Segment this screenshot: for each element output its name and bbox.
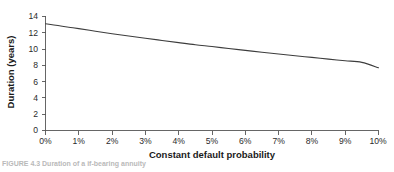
y-tick-label: 2 — [33, 109, 38, 119]
plot-area-background — [45, 10, 378, 130]
x-tick-label: 9% — [339, 136, 352, 146]
y-axis-title: Duration (years) — [5, 36, 16, 109]
y-axis-ticks — [42, 16, 46, 130]
x-tick-label: 2% — [106, 136, 119, 146]
x-tick-label: 6% — [239, 136, 252, 146]
figure-caption-text: FIGURE 4.3 Duration of a if-bearing annu… — [2, 161, 146, 167]
x-axis-title: Constant default probability — [149, 149, 276, 160]
y-tick-label: 4 — [33, 93, 38, 103]
x-axis-tick-labels: 0% 1% 2% 3% 4% 5% 6% 7% 8% 9% 10% — [39, 136, 387, 146]
y-axis-tick-labels: 0 2 4 6 8 10 12 14 — [28, 11, 38, 135]
x-axis-ticks — [46, 131, 379, 135]
y-tick-label: 0 — [33, 125, 38, 135]
y-tick-label: 14 — [28, 11, 38, 21]
y-tick-label: 8 — [33, 60, 38, 70]
x-tick-label: 3% — [139, 136, 152, 146]
x-tick-label: 1% — [73, 136, 86, 146]
y-tick-label: 12 — [28, 28, 38, 38]
x-tick-label: 7% — [272, 136, 285, 146]
x-tick-label: 8% — [306, 136, 319, 146]
figure-container: 0 2 4 6 8 10 12 14 0% 1% 2% — [0, 0, 394, 172]
x-tick-label: 10% — [369, 136, 387, 146]
y-tick-label: 6 — [33, 77, 38, 87]
duration-vs-default-probability-chart: 0 2 4 6 8 10 12 14 0% 1% 2% — [0, 0, 394, 172]
x-tick-label: 0% — [39, 136, 52, 146]
figure-caption-strip: FIGURE 4.3 Duration of a if-bearing annu… — [0, 161, 394, 172]
y-tick-label: 10 — [28, 44, 38, 54]
x-tick-label: 5% — [206, 136, 219, 146]
x-tick-label: 4% — [172, 136, 185, 146]
